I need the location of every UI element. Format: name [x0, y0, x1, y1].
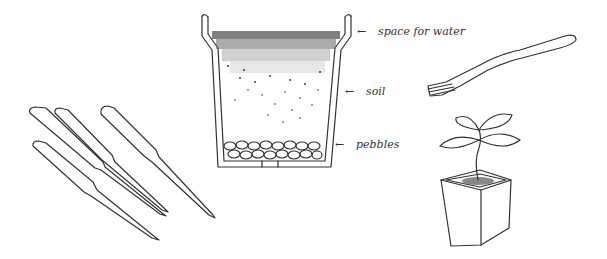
svg-text:soil: soil — [366, 85, 386, 98]
label-pebbles: ← pebbles — [335, 138, 400, 151]
arrow-left-icon: ← — [345, 85, 354, 98]
label-space-for-water: ← space for water — [357, 25, 466, 38]
plant-markers — [30, 106, 215, 240]
arrow-left-icon: ← — [335, 138, 344, 151]
illustration: ← space for water ← soil ← pebbles — [0, 0, 607, 259]
label-soil: ← soil — [345, 85, 386, 98]
pot-cross-section: ← space for water ← soil ← pebbles — [202, 15, 466, 167]
svg-text:space for water: space for water — [378, 25, 466, 38]
svg-text:pebbles: pebbles — [356, 138, 400, 151]
pebbles-layer — [224, 141, 322, 159]
seedling-pot — [440, 114, 520, 246]
fork-icon — [428, 35, 576, 96]
plant-marker-icon — [101, 106, 215, 218]
arrow-left-icon: ← — [357, 25, 366, 38]
illustration-canvas: ← space for water ← soil ← pebbles — [0, 0, 607, 259]
soil-texture — [212, 31, 340, 123]
